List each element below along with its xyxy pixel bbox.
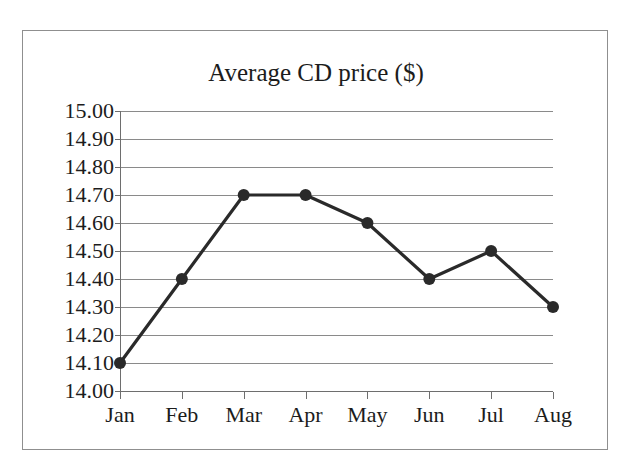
x-axis-tick-label: Aug xyxy=(508,400,598,430)
data-point-marker xyxy=(300,189,312,201)
x-axis-tick-mark xyxy=(367,392,368,399)
y-axis-tick-label: 14.20 xyxy=(34,324,114,346)
chart-screenshot: Average CD price ($) 15.0014.9014.8014.7… xyxy=(0,0,631,475)
y-axis-tick-label: 14.60 xyxy=(34,212,114,234)
y-axis-tick-label: 14.70 xyxy=(34,184,114,206)
y-axis-tick-label: 14.10 xyxy=(34,352,114,374)
y-axis-tick-label: 14.80 xyxy=(34,156,114,178)
x-axis-tick-mark xyxy=(306,392,307,399)
data-point-marker xyxy=(547,301,559,313)
x-axis-tick-mark xyxy=(182,392,183,399)
data-point-marker xyxy=(485,245,497,257)
data-point-marker xyxy=(176,273,188,285)
line-series xyxy=(120,111,553,392)
plot-area xyxy=(120,111,553,391)
chart-frame: Average CD price ($) 15.0014.9014.8014.7… xyxy=(22,30,608,450)
y-axis-tick-label: 15.00 xyxy=(34,100,114,122)
y-axis-tick-label: 14.30 xyxy=(34,296,114,318)
data-point-marker xyxy=(238,189,250,201)
x-axis-tick-mark xyxy=(429,392,430,399)
data-point-marker xyxy=(114,357,126,369)
data-point-marker xyxy=(361,217,373,229)
x-axis-tick-labels: JanFebMarAprMayJunJulAug xyxy=(120,400,553,434)
series-markers xyxy=(114,189,559,369)
chart-title: Average CD price ($) xyxy=(23,58,609,88)
y-axis-tick-label: 14.90 xyxy=(34,128,114,150)
y-axis-tick-label: 14.00 xyxy=(34,380,114,402)
x-axis-tick-mark xyxy=(491,392,492,399)
data-point-marker xyxy=(423,273,435,285)
y-axis-tick-label: 14.50 xyxy=(34,240,114,262)
x-axis-tick-mark xyxy=(120,392,121,399)
x-axis-tick-mark xyxy=(244,392,245,399)
x-axis-tick-mark xyxy=(553,392,554,399)
y-axis-tick-labels: 15.0014.9014.8014.7014.6014.5014.4014.30… xyxy=(29,111,114,391)
y-axis-tick-label: 14.40 xyxy=(34,268,114,290)
